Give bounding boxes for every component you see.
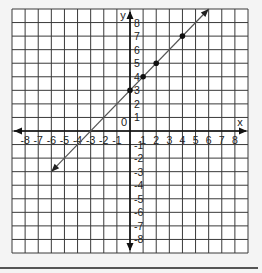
y-tick-label: 7 xyxy=(134,30,140,42)
x-tick-label: 7 xyxy=(219,134,225,146)
x-tick-label: -8 xyxy=(20,134,29,146)
x-tick-label: -5 xyxy=(60,134,69,146)
origin-label: 0 xyxy=(121,116,127,128)
data-point xyxy=(153,60,159,66)
bottom-rule xyxy=(0,267,258,269)
y-tick-label: 6 xyxy=(134,44,140,56)
data-point xyxy=(127,88,133,94)
data-point xyxy=(140,74,146,80)
y-tick-label: -2 xyxy=(134,152,143,164)
x-tick-label: -1 xyxy=(112,134,121,146)
y-tick-label: 2 xyxy=(134,98,140,110)
x-tick-label: 5 xyxy=(193,134,199,146)
y-tick-label: -1 xyxy=(134,139,143,151)
y-tick-label: -3 xyxy=(134,166,143,178)
x-tick-label: 4 xyxy=(180,134,186,146)
x-tick-label: 2 xyxy=(153,134,159,146)
x-tick-label: -6 xyxy=(47,134,56,146)
y-tick-label: 3 xyxy=(134,84,140,96)
x-tick-label: -7 xyxy=(34,134,43,146)
coordinate-plane-chart: -8-7-6-5-4-3-2-11234567887654321-1-2-3-4… xyxy=(0,0,262,273)
y-tick-label: -8 xyxy=(134,233,143,245)
y-tick-label: -7 xyxy=(134,220,143,232)
x-axis-label: x xyxy=(237,116,243,128)
x-tick-label: 8 xyxy=(232,134,238,146)
y-tick-label: 8 xyxy=(134,17,140,29)
y-tick-label: -4 xyxy=(134,179,143,191)
x-tick-label: 6 xyxy=(206,134,212,146)
y-tick-label: -6 xyxy=(134,206,143,218)
y-tick-label: -5 xyxy=(134,193,143,205)
x-tick-label: 3 xyxy=(166,134,172,146)
data-point xyxy=(180,33,186,39)
x-tick-label: -2 xyxy=(99,134,108,146)
y-tick-label: 5 xyxy=(134,57,140,69)
y-axis-label: y xyxy=(120,9,126,21)
x-tick-label: -3 xyxy=(86,134,95,146)
y-tick-label: 1 xyxy=(134,111,140,123)
